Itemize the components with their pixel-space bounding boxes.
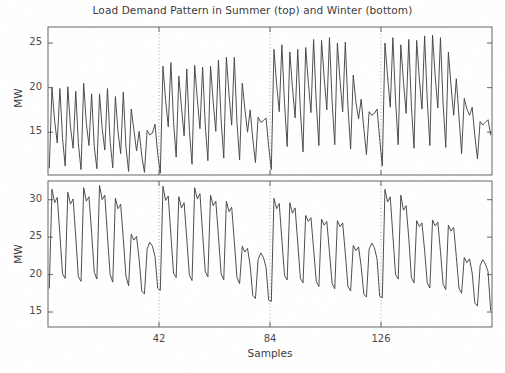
- y-tick-label: 30: [6, 193, 42, 204]
- x-tick-label: 84: [250, 333, 290, 344]
- y-tick-label: 20: [6, 268, 42, 279]
- series-line-winter: [49, 185, 490, 310]
- y-tick-label: 25: [6, 36, 42, 47]
- plot-svg: [0, 0, 505, 373]
- figure-canvas: Load Demand Pattern in Summer (top) and …: [0, 0, 505, 373]
- x-tick-label: 126: [361, 333, 401, 344]
- y-tick-label: 15: [6, 305, 42, 316]
- x-tick-label: 42: [139, 333, 179, 344]
- series-line-summer: [49, 35, 490, 173]
- y-tick-label: 15: [6, 125, 42, 136]
- panel-winter: [48, 181, 492, 327]
- y-tick-label: 20: [6, 81, 42, 92]
- panel-summer: [48, 27, 492, 175]
- y-tick-label: 25: [6, 230, 42, 241]
